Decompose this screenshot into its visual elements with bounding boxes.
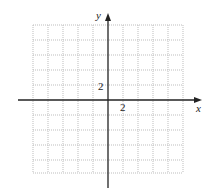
x-axis-label: x — [195, 102, 201, 114]
x-axis — [18, 97, 202, 103]
x-tick-label: 2 — [120, 101, 126, 113]
y-axis-arrow-icon — [105, 13, 111, 21]
coordinate-grid: x y 2 2 — [0, 0, 214, 196]
y-tick-label: 2 — [98, 80, 104, 92]
y-axis-label: y — [95, 9, 101, 21]
